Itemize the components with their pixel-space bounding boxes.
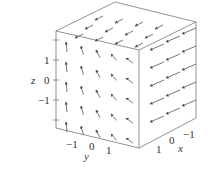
vector-field-plot: 1 0 −1 z −1 0 1 y 1 0 −1 x <box>0 0 208 171</box>
y-tick-0: 0 <box>89 140 95 152</box>
bounding-box <box>56 2 196 148</box>
z-tick-0: 0 <box>44 74 50 86</box>
z-axis-label: z <box>30 74 36 86</box>
x-tick-1: 1 <box>156 143 162 155</box>
y-axis-label: y <box>83 150 89 162</box>
z-tick-neg1: −1 <box>38 94 50 106</box>
x-tick-neg1: −1 <box>183 128 195 140</box>
x-axis: 1 0 −1 x <box>156 128 195 155</box>
z-tick-1: 1 <box>44 54 50 66</box>
y-tick-neg1: −1 <box>66 138 78 150</box>
x-tick-0: 0 <box>169 134 175 146</box>
y-axis: −1 0 1 y <box>66 138 112 162</box>
z-axis: 1 0 −1 z <box>30 40 59 120</box>
y-tick-1: 1 <box>106 144 112 156</box>
x-axis-label: x <box>177 142 183 154</box>
vector-field-arrows <box>66 16 196 143</box>
